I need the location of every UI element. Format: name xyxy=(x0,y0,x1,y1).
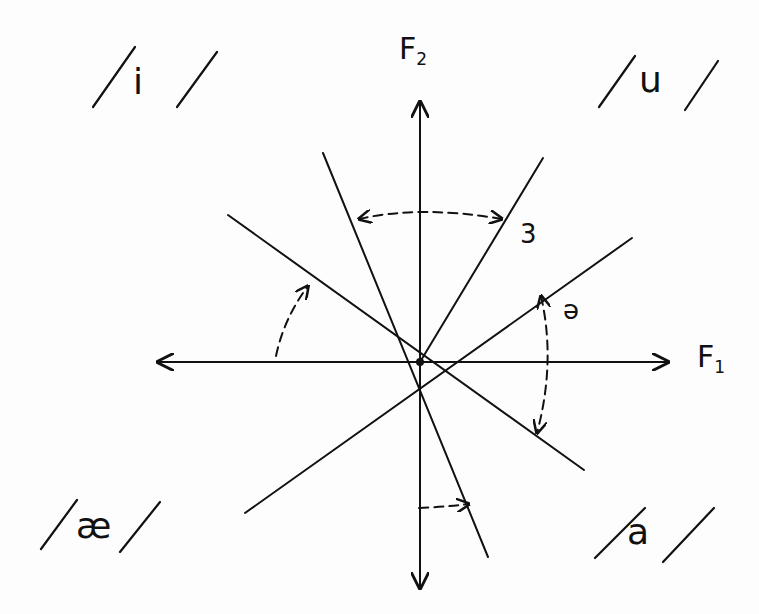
label-3: 3 xyxy=(520,221,537,247)
vowel-ae: æ xyxy=(76,508,111,544)
right-rotation-arrow xyxy=(537,296,548,433)
line-shallow-right xyxy=(245,238,632,513)
line-shallow-left xyxy=(228,215,584,470)
vowel-u: u xyxy=(639,62,662,98)
bottom-rotation-arrow xyxy=(419,504,469,508)
f2-axis-label: F2 xyxy=(399,34,427,68)
vowel-i: i xyxy=(133,64,143,100)
f1-axis-label: F1 xyxy=(697,342,725,376)
upper-rotation-arrow xyxy=(359,212,502,219)
left-rotation-arrow xyxy=(276,286,308,356)
label-schwa: ə xyxy=(563,297,579,323)
vowel-a: a xyxy=(627,514,649,550)
formant-diagram: F2 F1 i u æ a 3 ə xyxy=(0,0,759,614)
line-steep-right xyxy=(420,158,543,362)
